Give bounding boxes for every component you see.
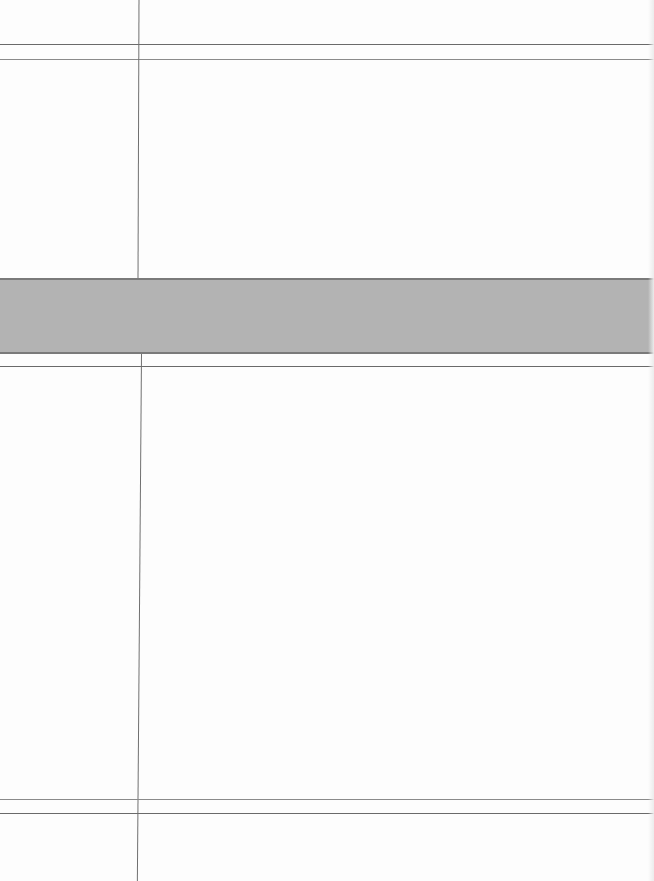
upper-label-cell [0,60,138,278]
footer-content-cell [146,814,654,881]
bottom-rule-upper [0,799,654,800]
top-rule-upper [0,44,654,45]
ledger-page [0,0,654,881]
lower-label-cell [0,367,140,799]
footer-label-cell [0,814,144,881]
scan-edge-shadow [648,0,654,881]
lower-content-cell [142,367,654,799]
shaded-band [0,278,654,354]
upper-content-cell [139,60,654,278]
